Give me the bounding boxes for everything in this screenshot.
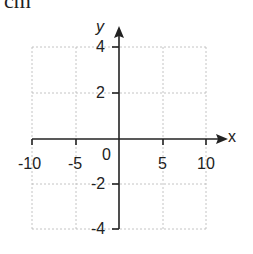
x-tick-label: -5	[68, 155, 82, 173]
x-tick-label: -10	[18, 155, 41, 173]
y-tick-label: 4	[96, 38, 105, 56]
x-tick-label: 5	[158, 155, 167, 173]
origin-label: 0	[102, 146, 111, 164]
y-axis-label: y	[96, 18, 104, 36]
y-tick-label: 2	[96, 84, 105, 102]
x-axis-label: x	[228, 128, 236, 146]
y-tick-label: -2	[91, 175, 105, 193]
y-tick-label: -4	[91, 220, 105, 238]
x-tick-label: 10	[197, 155, 215, 173]
